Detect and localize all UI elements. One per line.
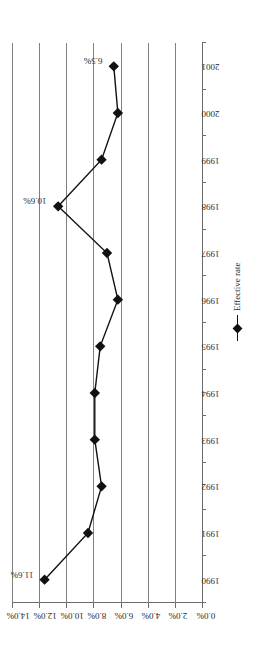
category-tick xyxy=(202,275,206,276)
value-label-0.0%: 0.0% xyxy=(196,611,246,620)
category-label-1990: 1990 xyxy=(191,575,231,584)
axis-tick-8.0% xyxy=(93,603,94,608)
category-tick xyxy=(202,415,206,416)
category-tick xyxy=(202,182,206,183)
data-label-1998: 10.6% xyxy=(23,196,46,205)
data-point-1995 xyxy=(95,341,105,351)
data-point-2000 xyxy=(113,108,123,118)
axis-tick-4.0% xyxy=(148,603,149,608)
category-label-2001: 2001 xyxy=(191,62,231,71)
data-point-1996 xyxy=(113,294,123,304)
data-label-2001: 6.5% xyxy=(84,56,103,65)
gridline-0.0% xyxy=(202,43,203,603)
category-label-1998: 1998 xyxy=(191,202,231,211)
category-tick xyxy=(202,89,206,90)
category-label-2000: 2000 xyxy=(191,109,231,118)
category-tick xyxy=(202,322,206,323)
category-tick xyxy=(202,369,206,370)
legend-marker-icon xyxy=(232,315,242,341)
data-point-2001 xyxy=(109,61,119,71)
series-effective-rate xyxy=(12,43,202,603)
category-tick xyxy=(202,602,206,603)
category-tick xyxy=(202,135,206,136)
category-label-1999: 1999 xyxy=(191,155,231,164)
category-tick xyxy=(202,509,206,510)
category-tick xyxy=(202,555,206,556)
category-label-1997: 1997 xyxy=(191,249,231,258)
category-label-1993: 1993 xyxy=(191,435,231,444)
category-tick xyxy=(202,229,206,230)
category-label-1995: 1995 xyxy=(191,342,231,351)
category-tick xyxy=(202,462,206,463)
category-label-1996: 1996 xyxy=(191,295,231,304)
axis-tick-12.0% xyxy=(39,603,40,608)
category-label-1991: 1991 xyxy=(191,529,231,538)
axis-tick-6.0% xyxy=(121,603,122,608)
data-label-1990: 11.6% xyxy=(10,569,33,578)
data-point-1993 xyxy=(90,434,100,444)
effective-rate-line-chart: 14.0%12.0%10.0%8.0%6.0%4.0%2.0%0.0% 11.6… xyxy=(0,0,265,659)
category-label-1994: 1994 xyxy=(191,389,231,398)
data-point-1994 xyxy=(90,388,100,398)
axis-tick-10.0% xyxy=(66,603,67,608)
category-tick xyxy=(202,42,206,43)
axis-tick-2.0% xyxy=(175,603,176,608)
chart-legend: Effective rate xyxy=(232,262,242,341)
axis-tick-14.0% xyxy=(12,603,13,608)
category-label-1992: 1992 xyxy=(191,482,231,491)
legend-label-effective-rate: Effective rate xyxy=(233,262,242,311)
chart-figure-rotator: 14.0%12.0%10.0%8.0%6.0%4.0%2.0%0.0% 11.6… xyxy=(0,0,265,659)
plot-area: 11.6%10.6%6.5% xyxy=(12,43,202,603)
series-line xyxy=(45,66,118,579)
axis-tick-0.0% xyxy=(202,603,203,608)
data-point-1992 xyxy=(96,481,106,491)
